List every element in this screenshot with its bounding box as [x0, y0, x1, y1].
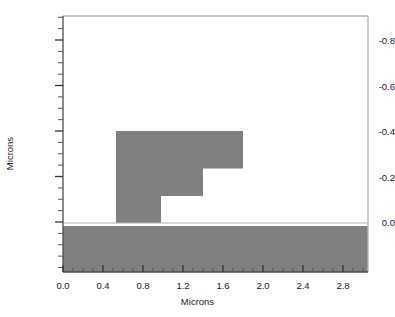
y-tick-label: -0.2 — [351, 171, 395, 182]
x-tick-label: 1.6 — [216, 280, 229, 291]
chart-figure: Microns Microns -0.8 -0.6 -0.4 -0.2 0.0 … — [0, 0, 395, 317]
substrate-layer — [63, 226, 368, 272]
x-tick-label: 0.8 — [136, 280, 149, 291]
y-tick-label: -0.6 — [351, 80, 395, 91]
y-tick-label: 0.0 — [351, 217, 395, 228]
plot-canvas — [0, 0, 395, 317]
y-tick-label: -0.4 — [351, 126, 395, 137]
x-axis-title: Microns — [0, 296, 395, 307]
y-tick-label: -0.8 — [351, 35, 395, 46]
y-major-ticks — [55, 40, 63, 222]
x-tick-label: 2.0 — [256, 280, 269, 291]
x-tick-label: 2.8 — [336, 280, 349, 291]
x-tick-label: 2.4 — [296, 280, 309, 291]
y-minor-ticks — [58, 17, 63, 267]
x-tick-label: 0.4 — [96, 280, 109, 291]
x-tick-label: 1.2 — [176, 280, 189, 291]
y-axis-title: Microns — [4, 124, 15, 184]
x-tick-label: 0.0 — [56, 280, 69, 291]
